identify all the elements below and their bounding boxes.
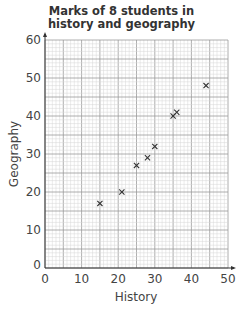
x-tick-label: 50 [220,272,235,286]
x-axis-arrow-icon [231,266,236,270]
x-tick-label: 40 [184,272,199,286]
y-tick-label: 10 [26,223,41,237]
y-tick-label: 30 [26,147,41,161]
axes [43,32,236,270]
y-axis-arrow-icon [43,32,47,37]
x-tick-label: 10 [74,272,89,286]
y-tick-label: 50 [26,71,41,85]
grid-lines [45,40,228,268]
y-tick-label: 40 [26,109,41,123]
tick-labels: 010203040500102030405060 [26,33,236,286]
y-tick-label: 0 [33,258,41,272]
x-tick-label: 20 [111,272,126,286]
scatter-plot: 010203040500102030405060 History Geograp… [0,0,243,312]
x-tick-label: 0 [41,272,49,286]
x-tick-label: 30 [147,272,162,286]
y-tick-label: 20 [26,185,41,199]
x-axis-label: History [115,290,158,304]
y-tick-label: 60 [26,33,41,47]
y-axis-label: Geography [7,121,21,187]
data-points [97,83,208,206]
